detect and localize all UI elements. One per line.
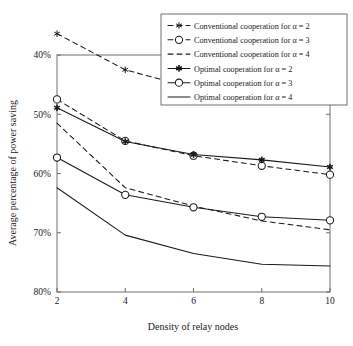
marker-circle: [258, 213, 265, 220]
chart-legend: Conventional cooperation for α = 2Conven…: [161, 14, 347, 105]
legend-label: Conventional cooperation for α = 3: [194, 36, 310, 45]
x-axis-title: Density of relay nodes: [148, 321, 238, 332]
x-tick-label: 10: [325, 296, 335, 306]
marker-circle: [53, 96, 60, 103]
marker-circle: [175, 79, 182, 86]
legend-label: Conventional cooperation for α = 2: [194, 22, 310, 31]
y-tick-label: 40%: [34, 50, 52, 60]
marker-circle: [258, 162, 265, 169]
y-axis-title: Average percentage of power saving: [7, 100, 18, 246]
marker-circle: [326, 217, 333, 224]
x-tick-label: 2: [55, 296, 60, 306]
marker-circle: [190, 204, 197, 211]
legend-label: Optimal cooperation for α = 3: [194, 79, 292, 88]
y-tick-label: 80%: [34, 287, 52, 297]
marker-circle: [53, 154, 60, 161]
x-tick-label: 4: [123, 296, 128, 306]
marker-circle: [122, 191, 129, 198]
chart-canvas: 246810 40%50%60%70%80% Density of relay …: [0, 0, 353, 346]
y-tick-label: 50%: [34, 110, 52, 120]
y-tick-label: 70%: [34, 228, 52, 238]
marker-circle: [175, 36, 182, 43]
legend-label: Conventional cooperation for α = 4: [194, 50, 310, 59]
legend-label: Optimal cooperation for α = 2: [194, 65, 292, 74]
x-tick-label: 8: [259, 296, 264, 306]
marker-circle: [326, 171, 333, 178]
chart-figure: 246810 40%50%60%70%80% Density of relay …: [0, 0, 353, 346]
y-tick-label: 60%: [34, 169, 52, 179]
x-tick-label: 6: [191, 296, 196, 306]
legend-label: Optimal cooperation for α = 4: [194, 93, 292, 102]
